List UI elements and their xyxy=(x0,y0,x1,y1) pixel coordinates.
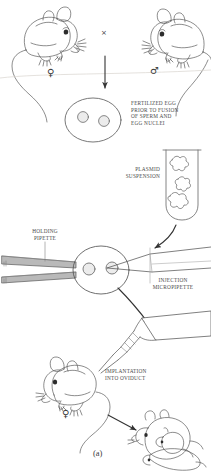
fertilized-egg-small xyxy=(65,98,121,142)
holding-pipette xyxy=(2,242,76,283)
offspring-arrow xyxy=(108,415,136,430)
label-plasmid-suspension: Plasmid suspension xyxy=(116,166,160,179)
label-injection-micropipette: Injection micropipette xyxy=(145,277,201,290)
female-symbol-parent: ♀ xyxy=(47,68,54,78)
transgenic-mouse-figure: Fertilized egg prior to fusion of sperm … xyxy=(0,0,211,472)
label-implantation-into-oviduct: Implantation into oviduct xyxy=(105,368,147,381)
offspring-litter xyxy=(128,410,206,470)
panel-label-a: (a) xyxy=(93,449,102,458)
plasmid-molecules xyxy=(168,156,191,208)
egg-under-injection xyxy=(73,246,129,294)
transfer-syringe xyxy=(99,311,211,373)
label-holding-pipette: Holding pipette xyxy=(22,228,68,241)
recipient-female-mouse xyxy=(36,357,110,453)
plasmid-load-arrow xyxy=(155,225,176,248)
parent-female-mouse xyxy=(12,7,86,122)
female-symbol-recipient: ♀ xyxy=(62,409,69,419)
male-symbol-parent: ♂ xyxy=(150,66,159,76)
cross-mating-symbol: × xyxy=(101,28,107,38)
label-fertilized-egg: Fertilized egg prior to fusion of sperm … xyxy=(131,100,179,126)
plasmid-tube xyxy=(163,150,201,220)
